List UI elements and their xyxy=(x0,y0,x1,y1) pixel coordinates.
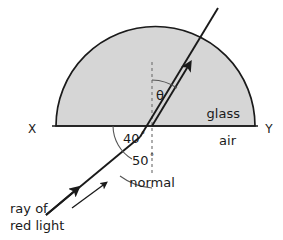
incident-ray-arrow xyxy=(46,188,78,215)
label-ray-line2: red light xyxy=(10,218,64,233)
label-angle-40: 40 xyxy=(123,131,140,146)
label-angle-theta: θ xyxy=(156,88,164,103)
label-angle-50: 50 xyxy=(132,153,149,168)
label-air: air xyxy=(219,133,237,148)
label-angle-40-degree-symbol: ° xyxy=(141,131,145,140)
label-point-x: X xyxy=(28,122,36,136)
label-ray-line1: ray of xyxy=(10,201,48,216)
label-normal: normal xyxy=(129,175,175,190)
ray-label-pointer-icon xyxy=(72,183,106,208)
label-glass: glass xyxy=(207,106,241,121)
label-angle-50-degree-symbol: ° xyxy=(150,153,154,162)
optics-diagram-canvas: X Y glass air θ 40 ° 50 ° normal ray of … xyxy=(0,0,283,240)
label-point-y: Y xyxy=(264,122,273,136)
optics-diagram: X Y glass air θ 40 ° 50 ° normal ray of … xyxy=(0,0,283,240)
